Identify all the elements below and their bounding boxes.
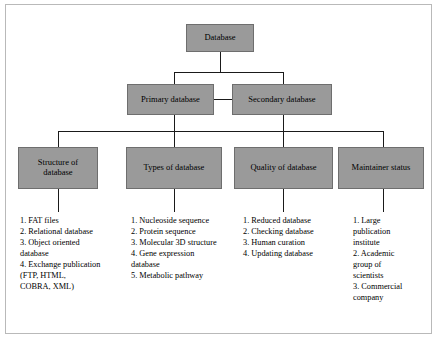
database-classification-diagram: Database Primary database Secondary data… [0,0,437,338]
structure-of-database-list: 1. FAT files 2. Relational database 3. O… [20,216,126,293]
maintainer-status-list: 1. Large publication institute 2. Academ… [353,216,433,304]
maintainer-status-box: Maintainer status [338,147,424,189]
structure-of-database-box: Structure of database [18,147,98,189]
quality-of-database-box: Quality of database [234,147,333,189]
database-box: Database [186,24,254,52]
primary-database-box: Primary database [127,84,214,115]
secondary-database-box: Secondary database [232,84,332,115]
types-of-database-list: 1. Nucleoside sequence 2. Protein sequen… [131,216,237,282]
types-of-database-box: Types of database [126,147,222,189]
quality-of-database-list: 1. Reduced database 2. Checking database… [243,216,347,260]
